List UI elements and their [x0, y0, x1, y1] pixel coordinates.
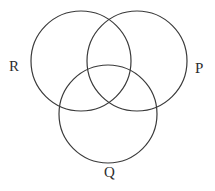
- venn-diagram-canvas: [0, 0, 215, 191]
- venn-diagram-figure: R P Q: [0, 0, 215, 191]
- venn-circle-q: [59, 65, 157, 163]
- venn-label-r: R: [9, 59, 19, 74]
- venn-circle-p: [87, 11, 187, 111]
- venn-label-q: Q: [104, 165, 115, 180]
- venn-label-p: P: [195, 61, 203, 76]
- venn-circle-r: [31, 11, 131, 111]
